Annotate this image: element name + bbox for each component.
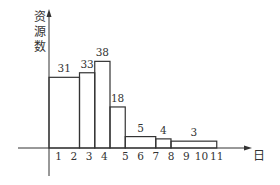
x-tick-label: 7 <box>152 150 159 162</box>
x-tick-label: 11 <box>210 150 223 162</box>
bar-segment <box>125 137 156 148</box>
x-axis-label: 日 <box>253 146 265 163</box>
y-axis-arrow-icon <box>47 9 52 17</box>
bar-segment <box>156 139 171 148</box>
x-tick-label: 10 <box>195 150 208 162</box>
bar-value-label: 38 <box>96 46 109 58</box>
bar-value-label: 4 <box>160 124 167 136</box>
y-axis-label-char: 资 <box>33 10 47 25</box>
bar-segment <box>110 107 125 148</box>
x-tick-label: 9 <box>183 150 190 162</box>
bar-value-label: 33 <box>80 58 93 70</box>
bar-segment <box>49 77 80 148</box>
x-tick-label: 6 <box>137 150 144 162</box>
bar-value-label: 3 <box>191 126 198 138</box>
x-axis-arrow-icon <box>244 146 252 151</box>
x-tick-label: 1 <box>55 150 62 162</box>
bar-segment <box>95 61 110 148</box>
bar-segment <box>80 73 95 148</box>
x-tick-label: 8 <box>168 150 175 162</box>
y-axis-label-char: 数 <box>33 40 47 55</box>
bar-value-label: 5 <box>137 122 144 134</box>
x-tick-label: 2 <box>71 150 78 162</box>
bar-value-label: 31 <box>58 62 71 74</box>
x-tick-label: 3 <box>86 150 93 162</box>
x-tick-label: 5 <box>122 150 129 162</box>
bar-value-label: 18 <box>111 92 124 104</box>
y-axis-label: 资 源 数 <box>33 10 47 55</box>
bar-segment <box>171 141 217 148</box>
y-axis-label-char: 源 <box>33 25 47 40</box>
x-tick-label: 4 <box>101 150 108 162</box>
